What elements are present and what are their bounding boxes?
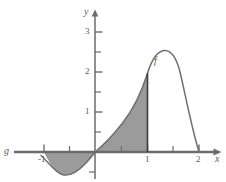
curve-label-g: g [4, 146, 9, 156]
y-tick-label-2: 2 [85, 67, 90, 76]
x-axis-label: x [215, 154, 219, 164]
y-axis-label: y [84, 7, 88, 17]
x-tick-label-2: 2 [196, 155, 201, 164]
x-tick-label-neg1: -1 [38, 155, 46, 164]
curve-label-f: f [154, 56, 157, 66]
shaded-region-positive [95, 73, 148, 152]
shaded-region-negative [44, 152, 95, 175]
y-axis-arrowhead [92, 10, 99, 17]
x-tick-label-1: 1 [145, 155, 150, 164]
function-area-figure: y x 1 2 3 -1 1 2 f g [0, 0, 226, 182]
y-tick-label-3: 3 [85, 27, 90, 36]
y-tick-label-1: 1 [85, 107, 90, 116]
plot-canvas [0, 0, 226, 182]
